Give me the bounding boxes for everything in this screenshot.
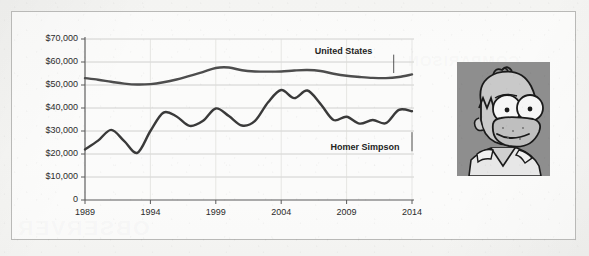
y-axis-tick-label: $30,000 xyxy=(45,125,78,135)
x-axis-tick-label: 1994 xyxy=(130,207,170,217)
y-axis-tick-label: $50,000 xyxy=(45,79,78,89)
series-annotation-homer-simpson: Homer Simpson xyxy=(330,142,399,152)
x-axis-tick-label: 2014 xyxy=(392,207,432,217)
x-axis-tick-label: 1989 xyxy=(65,207,105,217)
y-axis-tick-label: $40,000 xyxy=(45,102,78,112)
homer-simpson-drawing xyxy=(457,62,550,176)
x-axis-tick-label: 2009 xyxy=(327,207,367,217)
x-axis-tick-label: 2004 xyxy=(261,207,301,217)
homer-simpson-portrait-image xyxy=(457,62,550,176)
y-axis-tick-label: $20,000 xyxy=(45,148,78,158)
y-axis-tick-label: $10,000 xyxy=(45,171,78,181)
y-axis-tick-label: $70,000 xyxy=(45,33,78,43)
y-axis-tick-label: $60,000 xyxy=(45,56,78,66)
series-line-united-states xyxy=(85,67,412,84)
scanned-page-background: OBSERVER COMPARISON 0$10,000$20,000$30,0… xyxy=(0,0,589,256)
y-axis-tick-label: 0 xyxy=(73,194,78,204)
x-axis-tick-label: 1999 xyxy=(196,207,236,217)
series-annotation-united-states: United States xyxy=(315,46,373,56)
